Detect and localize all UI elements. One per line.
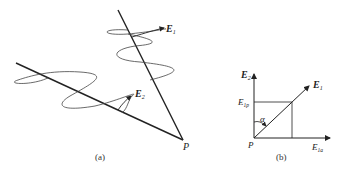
wave-e2	[14, 72, 133, 113]
arrow-e1	[132, 28, 164, 37]
label-e2: E2	[134, 88, 145, 100]
label-e1: E1	[165, 23, 176, 35]
label-angle-alpha: α	[260, 114, 265, 124]
label-y-axis: E2	[240, 69, 251, 81]
panel-a: E1 E2 P (a)	[14, 10, 189, 162]
label-point-p: P	[182, 141, 189, 152]
caption-a: (a)	[95, 152, 105, 162]
arrow-e2	[118, 96, 131, 110]
panel-b: E2 E1 E1p E1a α P (b)	[237, 69, 330, 162]
vector-e1	[254, 86, 309, 138]
figure-canvas: E1 E2 P (a) E2 E1 E1p E1a α P (b)	[0, 0, 343, 171]
label-vector-e1: E1	[312, 79, 323, 91]
caption-b: (b)	[276, 152, 287, 162]
ray-e2	[16, 63, 183, 140]
label-x-axis: E1a	[311, 142, 323, 153]
label-origin-p: P	[247, 140, 254, 150]
label-projection: E1p	[237, 97, 249, 108]
